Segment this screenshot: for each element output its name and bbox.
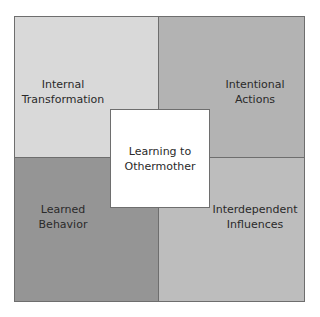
center-box-learning-to-othermother: Learning to Othermother [110,109,210,208]
center-label: Learning to Othermother [124,144,195,174]
